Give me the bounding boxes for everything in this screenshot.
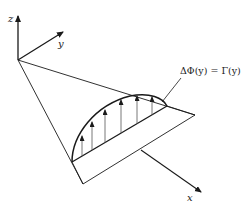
circulation-arrows xyxy=(82,96,152,156)
circulation-equation-label: ΔΦ(y) = Γ(y) xyxy=(180,65,241,76)
y-axis-label: y xyxy=(57,38,64,49)
x-axis xyxy=(141,150,201,192)
wing-circulation-diagram: z y x ΔΦ(y) = Γ(y) xyxy=(0,0,252,213)
wing-planform xyxy=(72,106,195,184)
vortex-sheet-outline xyxy=(18,60,195,184)
x-axis-label: x xyxy=(187,192,193,203)
circulation-curve xyxy=(72,95,167,162)
y-axis xyxy=(18,32,63,60)
z-axis-label: z xyxy=(7,13,14,24)
label-leader-line xyxy=(162,78,181,102)
